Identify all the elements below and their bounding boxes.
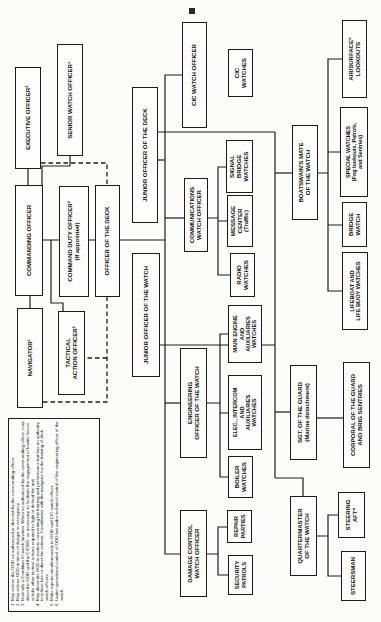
node-message-center: MESSAGE CENTER (Traffic) <box>227 195 253 247</box>
node-junior-officer-of-the-watch: JUNIOR OFFICER OF THE WATCH <box>132 253 160 377</box>
node-cic-watches: CIC WATCHES <box>228 49 253 97</box>
node-signal-bridge-watches: SIGNAL BRIDGE WATCHES <box>226 140 253 193</box>
node-main-engine-watches: MAIN ENGINE AND AUXILIARIES WATCHES <box>228 305 262 363</box>
node-engineering-officer-of-the-watch: ENGINEERING OFFICER OF THE WATCH <box>180 348 207 458</box>
node-damage-control-watch-officer: DAMAGE CONTROL WATCH OFFICER <box>180 510 207 597</box>
node-elec-intercom-watches: ELEC., INTERCOM AND AUXILIARIES WATCHES <box>228 375 262 450</box>
node-quartermaster-of-the-watch: QUARTERMASTER OF THE WATCH <box>290 496 317 576</box>
node-steersman: STEERSMAN <box>341 551 366 601</box>
footnote-item: Under operational control of OOD but und… <box>55 421 64 601</box>
footnotes-list: May relieve the OOD as authorized or dir… <box>11 421 65 609</box>
node-lifeboat-watches: LIFEBOAT AND LIFE BUOY WATCHES <box>342 252 368 330</box>
node-corporal-of-the-guard: CORPORAL OF THE GUARD AND BRIG SENTRIES <box>343 362 370 468</box>
scan-artifact <box>189 8 195 14</box>
node-steering-aft: STEERING AFT⁶ <box>338 492 365 538</box>
node-command-duty-officer: COMMAND DUTY OFFICER² (If appointed) <box>59 186 89 297</box>
footnote-item: Normally a Condition III watch function.… <box>21 421 35 601</box>
node-navigator: NAVIGATOR¹ <box>17 308 43 408</box>
node-tactical-action-officer: TACTICAL ACTION OFFICER³ <box>58 311 85 395</box>
node-junior-officer-of-the-deck: JUNIOR OFFICER OF THE DECK <box>132 87 158 223</box>
node-air-surface-lookouts: AIR/SURFACE⁵ LOOKOUTS <box>342 20 367 98</box>
node-executive-officer: EXECUTIVE OFFICER² <box>15 67 41 169</box>
node-communications-watch-officer: COMMUNICATIONS WATCH OFFICER <box>184 178 208 252</box>
node-repair-parties: REPAIR PARTIES <box>227 510 252 543</box>
node-officer-of-the-deck: OFFICER OF THE DECK <box>95 185 120 297</box>
node-senior-watch-officer: SENIOR WATCH OFFICER⁴ <box>57 44 83 156</box>
node-commanding-officer: COMMANDING OFFICER <box>15 185 43 296</box>
footnote-item: May direct the OOD in matters concerning… <box>36 421 50 601</box>
footnotes-box: May relieve the OOD as authorized or dir… <box>8 418 100 612</box>
scanned-page: NAVIGATOR¹ COMMANDING OFFICER EXECUTIVE … <box>0 0 381 622</box>
node-special-watches: SPECIAL WATCHES (Fog lookouts, Patrols, … <box>340 107 368 197</box>
node-cic-watch-officer: CIC WATCH OFFICER <box>182 22 207 128</box>
node-radio-watches: RADIO WATCHES <box>230 253 255 297</box>
node-bridge-watch: BRIDGE WATCH <box>342 202 367 247</box>
watch-organization-chart: NAVIGATOR¹ COMMANDING OFFICER EXECUTIVE … <box>0 0 381 622</box>
node-boatswains-mate-of-the-watch: BOATSWAIN'S MATE OF THE WATCH <box>292 125 318 220</box>
node-boiler-watches: BOILER WATCHES <box>228 456 253 498</box>
node-sgt-of-the-guard: SGT. OF THE GUARD (Marine detachment) <box>290 365 317 460</box>
node-security-patrols: SECURITY PATROLS <box>228 555 253 595</box>
